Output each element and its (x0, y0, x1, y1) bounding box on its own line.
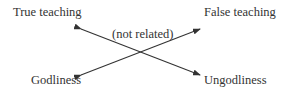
label-godliness: Godliness (31, 74, 81, 87)
label-false-teaching: False teaching (204, 6, 276, 19)
label-not-related: (not related) (112, 28, 173, 41)
label-true-teaching: True teaching (13, 6, 82, 19)
label-ungodliness: Ungodliness (204, 74, 267, 87)
